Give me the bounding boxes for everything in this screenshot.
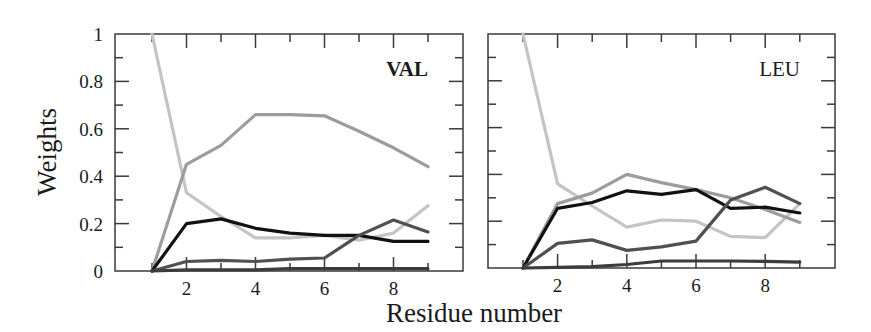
series-line-dark-gray xyxy=(523,187,800,268)
y-tick-label: 0.8 xyxy=(79,71,103,92)
panel-val: 246800.20.40.60.81VAL xyxy=(79,24,463,299)
y-axis-title: Weights xyxy=(32,108,62,196)
x-axis-title: Residue number xyxy=(386,298,562,328)
x-tick-label: 4 xyxy=(251,278,261,299)
x-tick-label: 8 xyxy=(760,275,770,296)
x-tick-label: 2 xyxy=(553,275,563,296)
x-tick-label: 8 xyxy=(389,278,399,299)
y-tick-label: 0.4 xyxy=(79,166,103,187)
panel-leu: 2468LEU xyxy=(488,34,835,296)
x-tick-label: 6 xyxy=(320,278,330,299)
y-tick-label: 1 xyxy=(94,24,104,45)
y-tick-label: 0 xyxy=(94,261,104,282)
x-tick-label: 2 xyxy=(182,278,192,299)
panel-label: LEU xyxy=(759,57,800,81)
panel-label: VAL xyxy=(386,57,428,81)
weights-line-chart: 246800.20.40.60.81VAL 2468LEU Weights Re… xyxy=(0,0,871,332)
x-tick-label: 4 xyxy=(622,275,632,296)
x-tick-label: 6 xyxy=(691,275,701,296)
y-tick-label: 0.6 xyxy=(79,119,103,140)
series-line-mid-gray xyxy=(152,115,428,271)
y-tick-label: 0.2 xyxy=(79,214,103,235)
